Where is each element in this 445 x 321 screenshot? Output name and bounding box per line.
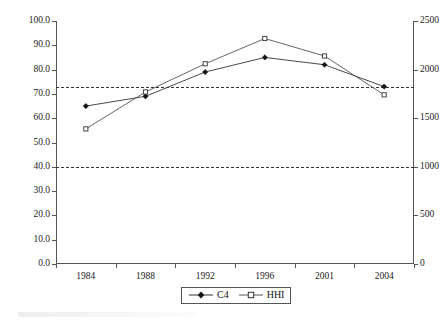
y-axis-left-tick (52, 70, 56, 71)
line-chart: 0.010.020.030.040.050.060.070.080.090.01… (0, 0, 445, 321)
y-axis-left-tick-label: 70.0 (6, 89, 50, 99)
y-axis-left-tick (52, 21, 56, 22)
y-axis-left-tick-label: 50.0 (6, 138, 50, 148)
legend-label-hhi: HHI (267, 289, 285, 301)
x-axis-tick-label: 2001 (295, 272, 355, 282)
y-axis-left-tick (52, 215, 56, 216)
filled-diamond-icon (188, 290, 214, 300)
reference-line-lower (56, 167, 414, 168)
y-axis-left-tick (52, 118, 56, 119)
open-square-icon (238, 290, 264, 300)
y-axis-right-tick-label: 500 (420, 210, 445, 220)
y-axis-right-tick (414, 167, 418, 168)
x-axis-tick (175, 264, 176, 268)
y-axis-left-tick (52, 143, 56, 144)
x-axis-tick (414, 264, 415, 268)
x-axis-tick-label: 1992 (175, 272, 235, 282)
y-axis-left-tick-label: 60.0 (6, 113, 50, 123)
x-axis-tick (295, 264, 296, 268)
plot-area (56, 21, 414, 264)
x-axis-tick (56, 264, 57, 268)
legend-label-c4: C4 (217, 289, 229, 301)
y-axis-left-tick (52, 94, 56, 95)
x-axis-tick (354, 264, 355, 268)
y-axis-left-tick (52, 45, 56, 46)
y-axis-right-tick-label: 2000 (420, 65, 445, 75)
y-axis-right-tick-label: 0 (420, 259, 445, 269)
legend-item-c4[interactable]: C4 (188, 289, 229, 301)
y-axis-left-tick-label: 20.0 (6, 210, 50, 220)
y-axis-right-tick-label: 1000 (420, 162, 445, 172)
reference-line-upper (56, 87, 414, 88)
y-axis-left-tick-label: 100.0 (6, 16, 50, 26)
x-axis-tick (116, 264, 117, 268)
x-axis-tick-label: 1996 (235, 272, 295, 282)
y-axis-right-tick (414, 21, 418, 22)
x-axis-tick (235, 264, 236, 268)
y-axis-left-tick (52, 191, 56, 192)
y-axis-right-tick-label: 2500 (420, 16, 445, 26)
y-axis-right-tick (414, 118, 418, 119)
y-axis-right-tick (414, 70, 418, 71)
y-axis-left-tick-label: 80.0 (6, 65, 50, 75)
y-axis-left-tick (52, 240, 56, 241)
y-axis-left-tick-label: 40.0 (6, 162, 50, 172)
y-axis-right-tick-label: 1500 (420, 113, 445, 123)
chart-legend: C4 HHI (181, 287, 291, 304)
y-axis-left-tick-label: 10.0 (6, 235, 50, 245)
x-axis-tick-label: 1988 (116, 272, 176, 282)
y-axis-left-tick-label: 0.0 (6, 259, 50, 269)
x-axis-tick-label: 2004 (354, 272, 414, 282)
y-axis-left-tick (52, 167, 56, 168)
y-axis-left-tick-label: 90.0 (6, 40, 50, 50)
legend-item-hhi[interactable]: HHI (238, 289, 285, 301)
x-axis-tick-label: 1984 (56, 272, 116, 282)
y-axis-right-tick (414, 215, 418, 216)
y-axis-left-tick-label: 30.0 (6, 186, 50, 196)
page-scan-artifact (18, 312, 198, 317)
